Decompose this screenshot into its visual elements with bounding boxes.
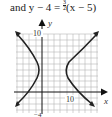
right-branch (66, 34, 97, 104)
y-tick-neg4: −4 (34, 111, 42, 117)
y-axis-label: y (47, 18, 52, 28)
x-axis-arrow-icon (101, 89, 108, 96)
y-axis-arrow-icon (39, 19, 46, 26)
hyperbola-graph: y x 10 10 −4 (0, 0, 112, 117)
x-tick-10: 10 (66, 95, 74, 104)
x-axis-label: x (103, 96, 108, 106)
y-tick-10: 10 (33, 29, 41, 38)
axes (14, 24, 104, 114)
